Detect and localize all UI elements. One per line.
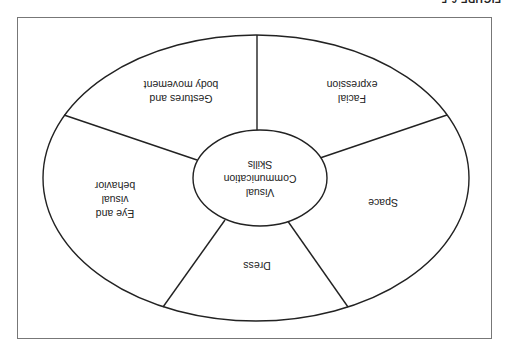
segment-facial-line-2: expression: [326, 79, 377, 91]
center-line-3: Skills: [248, 159, 273, 171]
segment-space: Space: [368, 197, 398, 209]
segment-dress: Dress: [243, 260, 270, 272]
segment-dress-line-1: Dress: [243, 260, 270, 272]
center-line-1: Visual: [246, 187, 274, 199]
visual-communication-diagram: Visual Communication Skills Gestures and…: [0, 0, 507, 355]
segment-eye-line-3: behavior: [94, 180, 135, 192]
segment-space-line-1: Space: [368, 197, 398, 209]
segment-eye-line-1: Eye and: [96, 208, 135, 220]
segment-eye-line-2: visual: [102, 194, 129, 206]
segment-gestures-line-2: body movement: [144, 79, 219, 91]
segment-gestures-line-1: Gestures and: [149, 93, 212, 105]
center-line-2: Communication: [223, 173, 296, 185]
segment-facial-line-1: Facial: [338, 93, 366, 105]
